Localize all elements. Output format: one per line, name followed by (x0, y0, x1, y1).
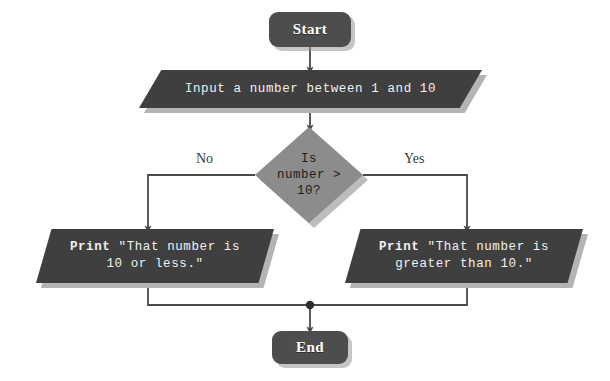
node-print-greater-text: "That number is greater than 10." (395, 240, 549, 271)
edge-yes-branch (363, 175, 467, 229)
edge-no-branch (148, 175, 255, 229)
node-decision[interactable]: Is number > 10? (255, 127, 363, 223)
node-print-less-text: "That number is 10 or less." (106, 240, 240, 271)
node-start[interactable]: Start (269, 12, 351, 47)
node-print-less[interactable]: Print "That number is 10 or less." (36, 229, 274, 283)
node-decision-label: Is number > 10? (277, 151, 341, 199)
merge-junction-dot (306, 301, 314, 309)
node-print-less-label: Print "That number is 10 or less." (56, 239, 254, 273)
node-print-greater-label: Print "That number is greater than 10." (365, 239, 563, 273)
node-decision-shape: Is number > 10? (255, 127, 363, 223)
node-print-greater[interactable]: Print "That number is greater than 10." (345, 229, 583, 283)
flowchart-diagram: Start Input a number between 1 and 10 Is… (0, 0, 610, 381)
node-start-label: Start (293, 21, 328, 38)
node-print-less-keyword: Print (70, 240, 111, 254)
node-input-label: Input a number between 1 and 10 (171, 81, 450, 98)
node-end[interactable]: End (272, 331, 348, 364)
edge-label-no: No (196, 151, 213, 167)
node-print-greater-shape: Print "That number is greater than 10." (345, 229, 583, 283)
node-print-less-shape: Print "That number is 10 or less." (36, 229, 274, 283)
node-input[interactable]: Input a number between 1 and 10 (139, 70, 482, 108)
node-end-label: End (296, 339, 324, 356)
node-print-greater-keyword: Print (379, 240, 420, 254)
edge-label-yes: Yes (404, 151, 424, 167)
node-input-shape: Input a number between 1 and 10 (139, 70, 482, 108)
